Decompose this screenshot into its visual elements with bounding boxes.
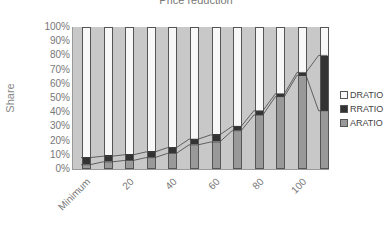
y-tick-label: 40%: [32, 106, 70, 117]
y-tick-label: 20%: [32, 135, 70, 146]
legend: DRATIO RRATIO ARATIO: [340, 88, 390, 130]
x-tick-label: 40: [164, 176, 180, 192]
connector-lines: [72, 27, 328, 169]
x-tick-label: 100: [289, 176, 309, 196]
rratio-swatch-icon: [340, 105, 348, 113]
y-axis-ticks: 100%90%80%70%60%50%40%30%20%10%0%: [30, 0, 70, 226]
x-tick-label: 60: [207, 176, 223, 192]
y-axis-label: Share: [2, 70, 16, 130]
y-tick-label: 30%: [32, 120, 70, 131]
dratio-swatch-icon: [340, 91, 348, 99]
legend-item-rratio: RRATIO: [340, 102, 390, 116]
y-tick-label: 0%: [32, 163, 70, 174]
x-tick-label: 80: [250, 176, 266, 192]
legend-item-aratio: ARATIO: [340, 116, 390, 130]
x-tick-label: 20: [120, 176, 136, 192]
y-tick-label: 100%: [32, 21, 70, 32]
y-tick-label: 50%: [32, 92, 70, 103]
y-tick-label: 90%: [32, 35, 70, 46]
y-tick-label: 60%: [32, 78, 70, 89]
y-tick-label: 80%: [32, 49, 70, 60]
y-tick-label: 70%: [32, 64, 70, 75]
y-tick-label: 10%: [32, 149, 70, 160]
aratio-swatch-icon: [340, 119, 348, 127]
legend-item-dratio: DRATIO: [340, 88, 390, 102]
